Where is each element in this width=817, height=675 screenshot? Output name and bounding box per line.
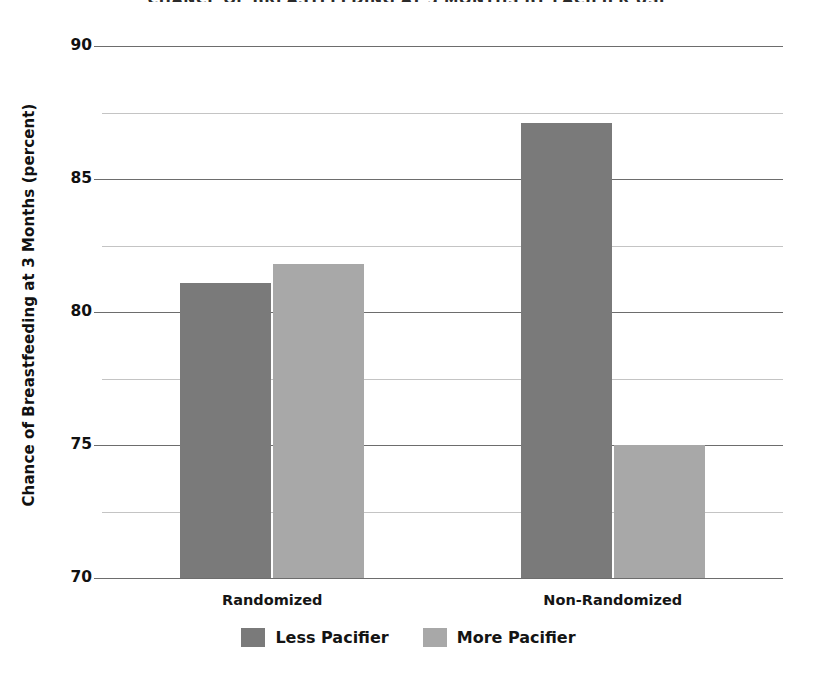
y-axis-title: Chance of Breastfeeding at 3 Months (per… xyxy=(18,25,40,585)
y-axis-tick-label: 85 xyxy=(56,171,92,187)
y-axis-tick-label: 70 xyxy=(56,570,92,586)
plot-area: 9085807570RandomizedNon-Randomized xyxy=(102,46,783,578)
chart-title: CHANCE OF BREASTFEEDING AT 3 MONTHS BY P… xyxy=(0,0,817,2)
gridline-minor xyxy=(102,113,783,114)
y-axis-tick-mark xyxy=(94,312,102,313)
legend-label: More Pacifier xyxy=(457,630,576,646)
bar xyxy=(521,123,612,578)
x-axis-category-label: Randomized xyxy=(102,592,443,608)
y-axis-tick-mark xyxy=(94,179,102,180)
bar xyxy=(614,445,705,578)
legend-item[interactable]: More Pacifier xyxy=(423,628,576,647)
gridline-major xyxy=(102,46,783,47)
legend-swatch-icon xyxy=(241,628,265,647)
bar xyxy=(273,264,364,578)
legend-item[interactable]: Less Pacifier xyxy=(241,628,388,647)
bar-chart-figure: CHANCE OF BREASTFEEDING AT 3 MONTHS BY P… xyxy=(0,0,817,675)
y-axis-tick-mark xyxy=(94,578,102,579)
gridline-major xyxy=(102,578,783,579)
y-axis-tick-label: 75 xyxy=(56,437,92,453)
legend-swatch-icon xyxy=(423,628,447,647)
y-axis-tick-mark xyxy=(94,445,102,446)
y-axis-tick-mark xyxy=(94,46,102,47)
y-axis-tick-label: 90 xyxy=(56,38,92,54)
chart-legend: Less PacifierMore Pacifier xyxy=(0,628,817,647)
legend-label: Less Pacifier xyxy=(275,630,388,646)
bar xyxy=(180,283,271,578)
gridline-major xyxy=(102,179,783,180)
gridline-minor xyxy=(102,246,783,247)
x-axis-category-label: Non-Randomized xyxy=(443,592,784,608)
y-axis-tick-label: 80 xyxy=(56,304,92,320)
